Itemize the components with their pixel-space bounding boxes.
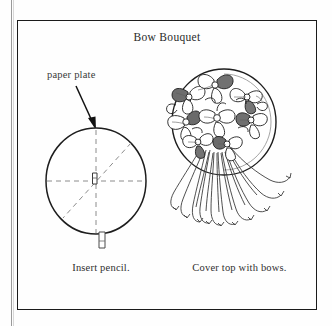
figure-bow-bouquet bbox=[167, 69, 291, 226]
arrow-down-right-icon bbox=[76, 86, 96, 130]
figure-paper-plate bbox=[46, 86, 146, 248]
illustration-artwork bbox=[0, 0, 332, 326]
caption-cover-top-with-bows: Cover top with bows. bbox=[172, 262, 307, 273]
scanned-craft-page: Bow Bouquet bbox=[0, 0, 332, 326]
caption-insert-pencil: Insert pencil. bbox=[36, 262, 166, 273]
pencil-tip-below-plate bbox=[99, 232, 105, 248]
paper-plate-annotation-label: paper plate bbox=[47, 69, 96, 80]
pencil-center bbox=[93, 173, 98, 184]
